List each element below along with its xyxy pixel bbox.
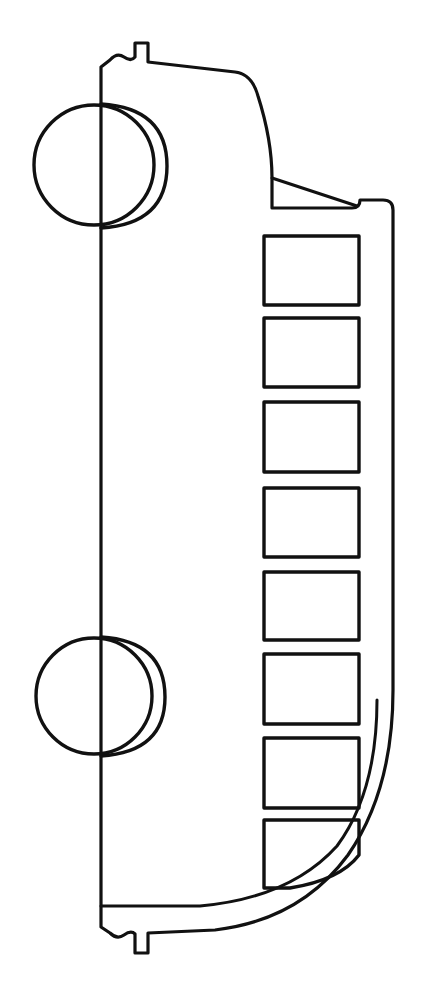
page-background <box>0 0 433 996</box>
drawing-canvas: School Bus Side View Line Drawing bus si… <box>0 0 433 996</box>
bus-line-drawing <box>0 0 433 996</box>
